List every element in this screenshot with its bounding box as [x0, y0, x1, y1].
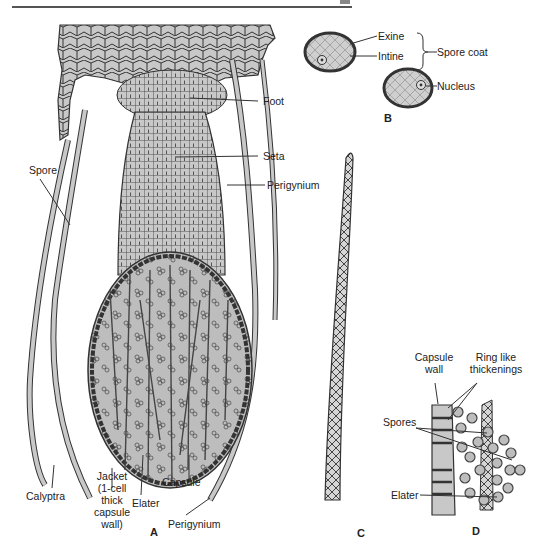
label-intine: Intine — [378, 50, 404, 62]
capsule-wall-detail — [432, 405, 455, 515]
label-jacket: Jacket (1-cell thick capsule wall) — [92, 470, 132, 530]
label-perigynium-top: Perigynium — [267, 179, 320, 191]
label-spore-coat: Spore coat — [437, 46, 488, 58]
elater-detail-d — [480, 400, 493, 510]
label-spores: Spores — [383, 416, 416, 428]
spore-diagram-2 — [384, 69, 432, 107]
label-nucleus: Nucleus — [437, 80, 475, 92]
panel-letter-d: D — [472, 525, 480, 537]
spore-diagram-1 — [305, 33, 355, 71]
label-spore: Spore — [29, 164, 57, 176]
label-foot: Foot — [263, 95, 284, 107]
panel-letter-b: B — [384, 112, 392, 124]
label-exine: Exine — [378, 30, 404, 42]
label-perigynium-bottom: Perigynium — [168, 518, 221, 530]
label-ring-thickenings: Ring like thickenings — [464, 351, 528, 375]
elater-detail — [325, 153, 353, 500]
label-capsule: Capsule — [162, 476, 201, 488]
panel-letter-c: C — [357, 527, 365, 539]
label-capsule-wall: Capsule wall — [412, 351, 456, 375]
label-elater-d: Elater — [391, 489, 418, 501]
label-calyptra: Calyptra — [26, 490, 65, 502]
panel-letter-a: A — [150, 526, 158, 538]
label-elater: Elater — [132, 497, 159, 509]
label-seta: Seta — [263, 150, 285, 162]
seta-tissue — [118, 112, 225, 275]
